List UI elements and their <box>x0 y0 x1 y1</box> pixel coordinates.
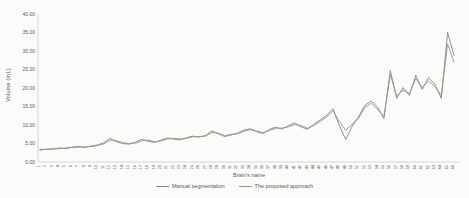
x-tick-label: 65 <box>445 165 449 169</box>
x-tick-label: 47 <box>330 165 334 169</box>
x-tick-label: 36 <box>260 165 264 169</box>
y-tick-label: 40.00 <box>22 11 35 17</box>
x-tick-label: 58 <box>400 165 404 169</box>
y-tick-label: 20.00 <box>22 85 35 91</box>
x-tick-label: 63 <box>432 165 436 169</box>
x-tick-label: 64 <box>438 165 442 169</box>
line-chart-figure: 0.005.0010.0015.0020.0025.0030.0035.0040… <box>0 0 469 198</box>
x-tick-label: 5 <box>62 165 66 167</box>
legend-label-manual: Manual segmentation <box>172 183 225 189</box>
x-tick-label: 30 <box>222 165 226 169</box>
x-tick-label: 60 <box>413 165 417 169</box>
plot-area: 0.005.0010.0015.0020.0025.0030.0035.0040… <box>0 0 469 198</box>
x-tick-label: 3 <box>50 165 54 167</box>
x-tick-label: 29 <box>215 165 219 169</box>
x-tick-label: 53 <box>368 165 372 169</box>
x-tick-label: 38 <box>273 165 277 169</box>
x-tick-label: 57 <box>394 165 398 169</box>
x-tick-label: 46 <box>324 165 328 169</box>
x-tick-label: 28 <box>209 165 213 169</box>
x-tick-label: 33 <box>241 165 245 169</box>
x-tick-label: 49 <box>343 165 347 169</box>
x-tick-label: 40 <box>285 165 289 169</box>
x-tick-label: 32 <box>234 165 238 169</box>
legend-item-manual-segmentation: Manual segmentation <box>156 183 225 189</box>
y-tick-label: 35.00 <box>22 29 35 35</box>
x-tick-label: 41 <box>292 165 296 169</box>
x-tick-label: 31 <box>228 165 232 169</box>
x-tick-label: 9 <box>88 165 92 167</box>
x-tick-label: 13 <box>113 165 117 169</box>
x-tick-label: 23 <box>177 165 181 169</box>
x-tick-label: 1 <box>37 165 41 167</box>
x-tick-label: 19 <box>152 165 156 169</box>
x-tick-label: 25 <box>190 165 194 169</box>
x-tick-label: 34 <box>247 165 251 169</box>
x-tick-label: 7 <box>75 165 79 167</box>
x-tick-label: 61 <box>419 165 423 169</box>
x-tick-label: 21 <box>164 165 168 169</box>
legend: Manual segmentation The proposed approac… <box>0 183 469 189</box>
x-tick-label: 14 <box>120 165 124 169</box>
x-tick-label: 48 <box>336 165 340 169</box>
x-tick-label: 54 <box>375 165 379 169</box>
x-tick-label: 8 <box>82 165 86 167</box>
x-tick-label: 17 <box>139 165 143 169</box>
x-tick-label: 43 <box>305 165 309 169</box>
x-tick-label: 12 <box>107 165 111 169</box>
x-tick-label: 24 <box>183 165 187 169</box>
legend-item-proposed-approach: The proposed approach <box>239 183 313 189</box>
x-tick-label: 66 <box>451 165 455 169</box>
x-tick-label: 55 <box>381 165 385 169</box>
x-tick-label: 11 <box>101 165 105 169</box>
x-tick-label: 45 <box>317 165 321 169</box>
x-tick-label: 2 <box>43 165 47 167</box>
series-line-manual-segmentation <box>40 33 454 151</box>
x-tick-label: 59 <box>406 165 410 169</box>
x-tick-label: 6 <box>69 165 73 167</box>
x-tick-label: 10 <box>94 165 98 169</box>
x-tick-label: 22 <box>171 165 175 169</box>
x-tick-label: 56 <box>387 165 391 169</box>
x-tick-label: 27 <box>203 165 207 169</box>
x-tick-label: 18 <box>145 165 149 169</box>
x-tick-label: 42 <box>298 165 302 169</box>
y-tick-label: 10.00 <box>22 122 35 128</box>
legend-line-swatch-proposed <box>239 186 252 187</box>
x-tick-label: 35 <box>254 165 258 169</box>
y-tick-label: 0.00 <box>25 159 35 165</box>
legend-line-swatch-manual <box>156 186 169 187</box>
y-axis-title: Volume (mL) <box>5 50 11 120</box>
x-tick-label: 62 <box>426 165 430 169</box>
x-tick-label: 44 <box>311 165 315 169</box>
x-tick-label: 51 <box>355 165 359 169</box>
x-tick-label: 37 <box>266 165 270 169</box>
series-line-proposed-approach <box>40 44 454 149</box>
x-tick-label: 20 <box>158 165 162 169</box>
x-tick-label: 4 <box>56 165 60 167</box>
x-tick-label: 26 <box>196 165 200 169</box>
legend-label-proposed: The proposed approach <box>255 183 313 189</box>
x-axis-title: Brain's name <box>38 172 460 178</box>
y-tick-label: 30.00 <box>22 48 35 54</box>
x-tick-label: 52 <box>362 165 366 169</box>
x-tick-label: 39 <box>279 165 283 169</box>
x-tick-label: 50 <box>349 165 353 169</box>
x-tick-label: 15 <box>126 165 130 169</box>
x-tick-label: 16 <box>133 165 137 169</box>
y-tick-label: 25.00 <box>22 66 35 72</box>
y-tick-label: 5.00 <box>25 140 35 146</box>
y-tick-label: 15.00 <box>22 103 35 109</box>
